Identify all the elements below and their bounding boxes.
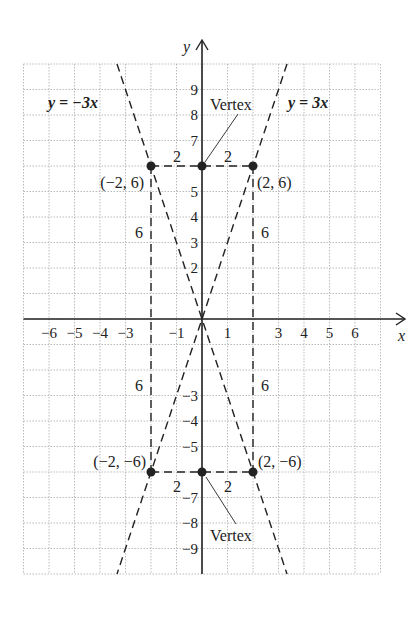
x-tick-label: 6 <box>351 325 359 341</box>
plotted-point <box>198 162 207 171</box>
y-tick-label: 9 <box>191 82 199 98</box>
point-label: (−2, −6) <box>93 453 146 471</box>
graph-canvas: xy −6−5−4−3−1134569875432−3−4−5−7−8−9 y … <box>0 0 413 625</box>
plotted-point <box>147 468 156 477</box>
height-label: 6 <box>261 224 269 241</box>
x-tick-label: −3 <box>118 325 134 341</box>
x-tick-label: 5 <box>326 325 334 341</box>
point-label: (−2, 6) <box>100 174 144 192</box>
x-tick-label: −6 <box>41 325 57 341</box>
point-label: (2, −6) <box>258 453 302 471</box>
y-tick-label: 2 <box>191 260 199 276</box>
y-tick-label: 5 <box>191 184 199 200</box>
point-label: (2, 6) <box>257 174 292 192</box>
height-label: 6 <box>135 224 143 241</box>
x-tick-label: −4 <box>92 325 108 341</box>
equation-label-positive: y = 3x <box>286 94 328 112</box>
axes: xy <box>24 38 406 574</box>
y-tick-label: −4 <box>182 413 198 429</box>
x-tick-label: −5 <box>67 325 83 341</box>
vertex-leader-top <box>205 114 238 162</box>
x-tick-label: 4 <box>300 325 308 341</box>
equation-label-negative: y = −3x <box>46 94 98 112</box>
y-tick-label: −5 <box>182 439 198 455</box>
y-tick-label: 7 <box>191 133 199 149</box>
height-label: 6 <box>261 377 269 394</box>
width-label: 2 <box>173 148 181 165</box>
width-label: 2 <box>224 478 232 495</box>
coordinate-plane-figure: xy −6−5−4−3−1134569875432−3−4−5−7−8−9 y … <box>0 0 413 625</box>
x-tick-label: 1 <box>224 325 232 341</box>
x-tick-label: −1 <box>169 325 185 341</box>
height-label: 6 <box>135 377 143 394</box>
y-tick-label: −9 <box>182 541 198 557</box>
width-label: 2 <box>224 148 232 165</box>
vertex-label-bottom: Vertex <box>210 527 252 544</box>
plotted-point <box>147 162 156 171</box>
y-tick-label: −8 <box>182 515 198 531</box>
y-tick-label: −7 <box>182 490 198 506</box>
vertex-label-top: Vertex <box>210 96 252 113</box>
y-tick-label: 8 <box>191 107 199 123</box>
y-tick-label: −3 <box>182 388 198 404</box>
plotted-point <box>249 162 258 171</box>
plotted-point <box>249 468 258 477</box>
x-tick-label: 3 <box>275 325 283 341</box>
y-tick-label: 4 <box>191 209 199 225</box>
plotted-point <box>198 468 207 477</box>
y-tick-label: 3 <box>191 235 199 251</box>
width-label: 2 <box>173 478 181 495</box>
x-axis-label: x <box>397 327 405 344</box>
y-axis-label: y <box>181 38 191 56</box>
